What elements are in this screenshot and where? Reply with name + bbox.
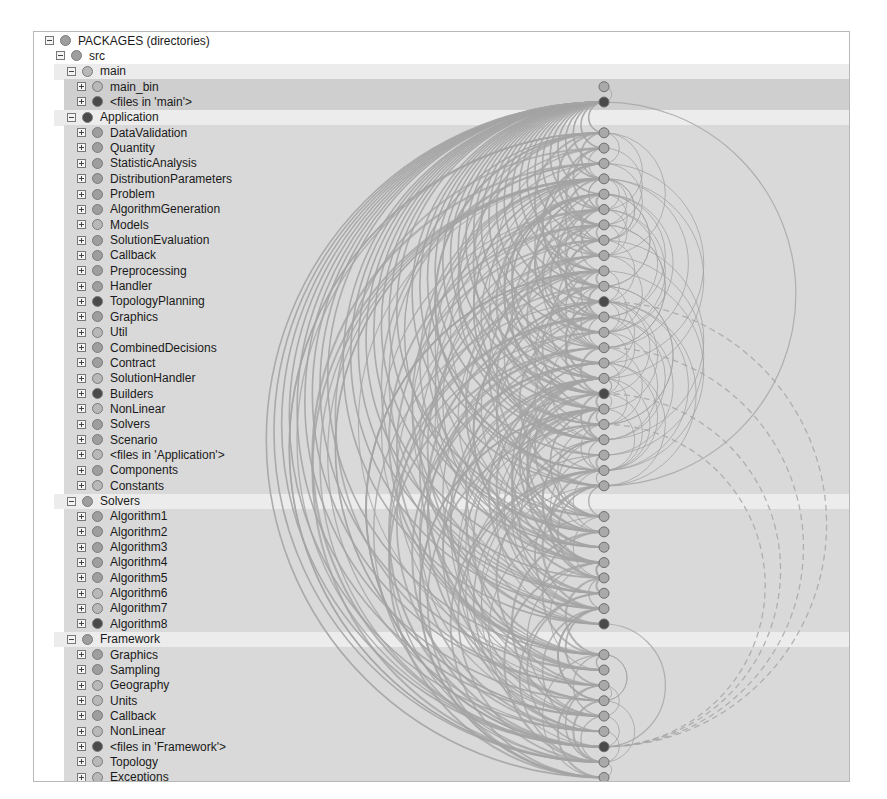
expand-icon[interactable] [77,466,86,475]
graph-node[interactable] [599,465,609,475]
expand-icon[interactable] [77,297,86,306]
graph-node[interactable] [599,604,609,614]
expand-icon[interactable] [77,174,86,183]
graph-node[interactable] [599,404,609,414]
expand-icon[interactable] [77,220,86,229]
expand-icon[interactable] [77,450,86,459]
tree-item[interactable]: Models [77,217,149,232]
tree-item[interactable]: Callback [77,248,156,263]
graph-node[interactable] [599,726,609,736]
expand-icon[interactable] [77,190,86,199]
expand-icon[interactable] [77,374,86,383]
graph-node[interactable] [599,680,609,690]
tree-item[interactable]: Geography [77,678,169,693]
tree-item[interactable]: Exceptions [77,770,169,782]
collapse-icon[interactable] [67,635,76,644]
tree-item[interactable]: Framework [67,632,160,647]
collapse-icon[interactable] [45,36,54,45]
tree-item[interactable]: StatisticAnalysis [77,156,197,171]
tree-item[interactable]: Algorithm5 [77,570,167,585]
graph-node[interactable] [599,158,609,168]
tree-item[interactable]: Preprocessing [77,263,187,278]
graph-node[interactable] [599,327,609,337]
tree-item[interactable]: Builders [77,386,153,401]
graph-node[interactable] [599,174,609,184]
expand-icon[interactable] [77,604,86,613]
expand-icon[interactable] [77,727,86,736]
graph-node[interactable] [599,772,609,781]
tree-item[interactable]: Units [77,693,137,708]
tree-item[interactable]: <files in 'Application'> [77,447,225,462]
tree-item[interactable]: Contract [77,355,155,370]
tree-item[interactable]: DistributionParameters [77,171,232,186]
tree-item[interactable]: CombinedDecisions [77,340,217,355]
expand-icon[interactable] [77,527,86,536]
expand-icon[interactable] [77,343,86,352]
tree-item[interactable]: Algorithm7 [77,601,167,616]
graph-node[interactable] [599,435,609,445]
tree-item[interactable]: Util [77,325,127,340]
expand-icon[interactable] [77,251,86,260]
expand-icon[interactable] [77,328,86,337]
tree-item[interactable]: Algorithm3 [77,540,167,555]
tree-item[interactable]: Graphics [77,647,158,662]
graph-node[interactable] [599,143,609,153]
tree-item[interactable]: Solvers [67,494,140,509]
expand-icon[interactable] [77,757,86,766]
tree-item[interactable]: SolutionEvaluation [77,233,209,248]
tree-item[interactable]: Algorithm4 [77,555,167,570]
tree-item[interactable]: Quantity [77,140,155,155]
graph-node[interactable] [599,312,609,322]
graph-node[interactable] [599,235,609,245]
expand-icon[interactable] [77,389,86,398]
graph-node[interactable] [599,742,609,752]
tree-item[interactable]: TopologyPlanning [77,294,205,309]
tree-item[interactable]: Callback [77,708,156,723]
expand-icon[interactable] [77,128,86,137]
graph-node[interactable] [599,527,609,537]
tree-item[interactable]: Problem [77,187,155,202]
expand-icon[interactable] [77,266,86,275]
graph-node[interactable] [599,97,609,107]
graph-node[interactable] [599,189,609,199]
graph-node[interactable] [599,205,609,215]
expand-icon[interactable] [77,543,86,552]
collapse-icon[interactable] [67,497,76,506]
tree-item[interactable]: SolutionHandler [77,371,195,386]
graph-node[interactable] [599,711,609,721]
graph-node[interactable] [599,297,609,307]
expand-icon[interactable] [77,773,86,782]
graph-node[interactable] [599,251,609,261]
expand-icon[interactable] [77,558,86,567]
graph-node[interactable] [599,665,609,675]
expand-icon[interactable] [77,159,86,168]
graph-node[interactable] [599,696,609,706]
expand-icon[interactable] [77,435,86,444]
expand-icon[interactable] [77,97,86,106]
expand-icon[interactable] [77,82,86,91]
graph-node[interactable] [599,757,609,767]
tree-item[interactable]: main_bin [77,79,159,94]
expand-icon[interactable] [77,236,86,245]
tree-item[interactable]: Scenario [77,432,157,447]
tree-item[interactable]: NonLinear [77,724,165,739]
tree-item[interactable]: Sampling [77,662,160,677]
expand-icon[interactable] [77,742,86,751]
graph-node[interactable] [599,419,609,429]
tree-item[interactable]: Application [67,110,159,125]
expand-icon[interactable] [77,573,86,582]
tree-item[interactable]: src [56,48,105,63]
tree-item[interactable]: Algorithm6 [77,586,167,601]
expand-icon[interactable] [77,481,86,490]
tree-item[interactable]: PACKAGES (directories) [45,33,210,48]
collapse-icon[interactable] [67,113,76,122]
tree-item[interactable]: Constants [77,478,164,493]
expand-icon[interactable] [77,512,86,521]
graph-node[interactable] [599,588,609,598]
expand-icon[interactable] [77,711,86,720]
expand-icon[interactable] [77,358,86,367]
expand-icon[interactable] [77,696,86,705]
tree-item[interactable]: <files in 'main'> [77,94,192,109]
tree-item[interactable]: Algorithm8 [77,616,167,631]
graph-node[interactable] [599,558,609,568]
